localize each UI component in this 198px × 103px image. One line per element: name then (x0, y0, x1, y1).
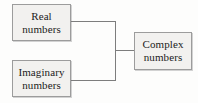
connector-spine-to-complex (115, 50, 135, 51)
connector-vertical-spine (115, 21, 116, 81)
node-imaginary-numbers: Imaginary numbers (12, 60, 71, 97)
diagram-canvas: Real numbers Imaginary numbers Complex n… (0, 0, 198, 103)
node-complex-numbers: Complex numbers (134, 32, 192, 70)
connector-real-to-spine (71, 21, 116, 22)
node-real-numbers: Real numbers (12, 4, 71, 41)
connector-imaginary-to-spine (71, 80, 116, 81)
